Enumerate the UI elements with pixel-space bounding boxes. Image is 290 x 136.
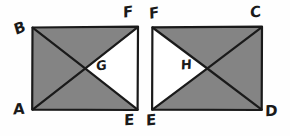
vertex-label-d: D <box>265 104 278 120</box>
vertex-label-c: C <box>250 4 261 21</box>
left-rectangle-group <box>32 27 138 110</box>
right-rectangle-group <box>152 27 262 110</box>
vertex-label-f-right: F <box>149 5 160 22</box>
region-label-h: H <box>181 58 192 72</box>
vertex-label-f-left: F <box>123 4 133 21</box>
figure-canvas <box>0 0 290 136</box>
region-label-g: G <box>96 58 107 72</box>
vertex-label-e-left: E <box>124 113 134 129</box>
vertex-label-a: A <box>13 102 25 118</box>
vertex-label-e-right: E <box>146 113 156 129</box>
geometry-figure: B F A E G F C E D H <box>0 0 290 136</box>
